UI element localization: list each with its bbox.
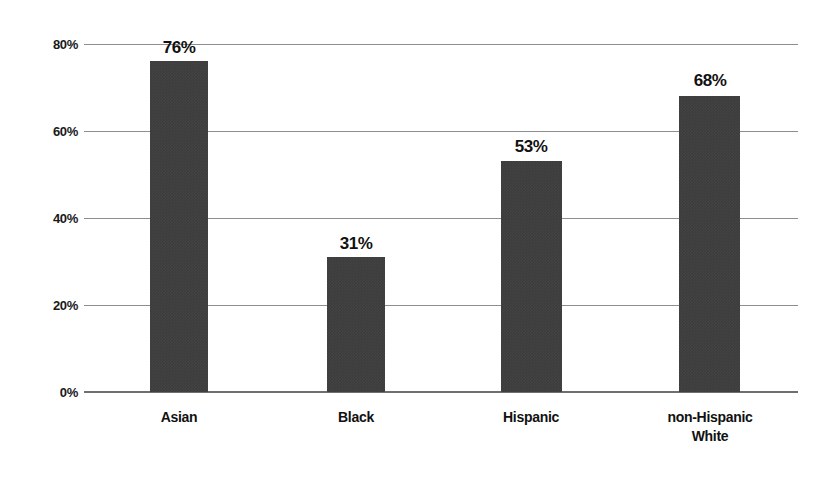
category-label-non-hispanic-white: non-Hispanic White <box>651 408 769 446</box>
category-label-non-hispanic-white-line1: non-Hispanic <box>667 409 752 425</box>
bar-value-asian: 76% <box>120 38 238 58</box>
bar-value-black: 31% <box>297 234 415 254</box>
category-label-asian-line1: Asian <box>161 409 198 425</box>
category-label-hispanic-line1: Hispanic <box>503 409 559 425</box>
y-axis-tick-labels: 80% 60% 40% 20% 0% <box>0 44 78 392</box>
category-label-asian: Asian <box>120 408 238 427</box>
plot-area <box>84 44 798 392</box>
bar-asian[interactable] <box>150 61 208 392</box>
bar-non-hispanic-white[interactable] <box>679 96 740 392</box>
bar-hispanic[interactable] <box>501 161 562 392</box>
y-axis-tick-20: 20% <box>14 298 78 313</box>
bar-chart: 80% 60% 40% 20% 0% 76% 31% 53% 68% Asian… <box>0 0 839 478</box>
y-axis-tick-60: 60% <box>14 124 78 139</box>
y-axis-tick-80: 80% <box>14 37 78 52</box>
category-label-hispanic: Hispanic <box>472 408 590 427</box>
category-label-black-line1: Black <box>338 409 374 425</box>
category-label-black: Black <box>297 408 415 427</box>
y-axis-tick-40: 40% <box>14 211 78 226</box>
category-label-non-hispanic-white-line2: White <box>692 428 729 444</box>
bar-value-hispanic: 53% <box>472 137 590 157</box>
bar-black[interactable] <box>327 257 385 392</box>
y-axis-tick-0: 0% <box>14 385 78 400</box>
bar-value-non-hispanic-white: 68% <box>651 71 769 91</box>
